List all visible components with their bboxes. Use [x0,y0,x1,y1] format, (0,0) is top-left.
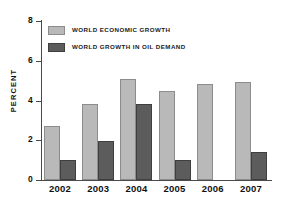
x-axis-label-2003: 2003 [79,184,117,194]
y-axis-tick-0 [36,180,41,181]
y-axis-label-4: 4 [5,96,33,105]
bar-2003-series-1 [82,104,98,180]
x-axis-label-2006: 2006 [194,184,232,194]
bar-2007-series-2 [251,152,267,180]
bar-chart: PERCENT 02468 200220032004200520062007 W… [0,0,289,209]
y-axis-label-0: 0 [5,175,33,184]
chart-legend: WORLD ECONOMIC GROWTH WORLD GROWTH IN OI… [48,24,186,58]
y-axis-label-6: 6 [5,56,33,65]
legend-label-economic-growth: WORLD ECONOMIC GROWTH [72,27,170,33]
legend-item-world-economic-growth: WORLD ECONOMIC GROWTH [48,24,186,37]
bar-2006-series-1 [197,84,213,180]
y-axis-label-2: 2 [5,135,33,144]
bar-2002-series-2 [60,160,76,180]
x-axis-label-2007: 2007 [232,184,270,194]
y-axis-label-8: 8 [5,16,33,25]
bar-2005-series-1 [159,91,175,180]
legend-swatch-icon-oil-demand [48,43,65,52]
bar-2004-series-2 [136,104,152,180]
bar-2007-series-1 [235,82,251,180]
x-axis-label-2002: 2002 [41,184,79,194]
bar-2003-series-2 [98,141,114,180]
legend-item-world-growth-in-oil-demand: WORLD GROWTH IN OIL DEMAND [48,41,186,54]
x-axis-label-2004: 2004 [117,184,155,194]
legend-swatch-icon-economic-growth [48,26,65,35]
legend-label-oil-demand: WORLD GROWTH IN OIL DEMAND [72,44,186,50]
bar-2002-series-1 [44,126,60,180]
bar-2005-series-2 [175,160,191,180]
x-axis-label-2005: 2005 [156,184,194,194]
x-axis-line [41,180,272,181]
y-axis-title: PERCENT [9,61,18,121]
bar-2004-series-1 [120,79,136,180]
